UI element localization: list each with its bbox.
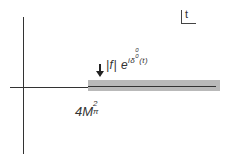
plane-marker-horizontal (181, 23, 196, 24)
threshold-indices: 2π (93, 100, 98, 116)
branch-cut-line (88, 86, 216, 87)
delta-argument: (t) (139, 56, 148, 65)
delta-subscript: 0 (135, 53, 139, 59)
imaginary-axis (23, 17, 24, 154)
plane-label: t (185, 8, 188, 20)
delta-indices: 00 (135, 47, 139, 59)
exponent-delta: iδ (128, 56, 135, 65)
plane-marker-vertical (181, 10, 182, 24)
threshold-subscript: π (93, 107, 98, 116)
threshold-label: 4M2π (75, 104, 98, 120)
arrow-head-icon (96, 71, 104, 77)
cut-label-exponent: iδ00(t) (128, 56, 148, 65)
cut-label-prefix: |f| e (106, 58, 128, 72)
cut-discontinuity-label: |f| eiδ00(t) (106, 58, 148, 72)
threshold-base: 4M (75, 104, 93, 119)
